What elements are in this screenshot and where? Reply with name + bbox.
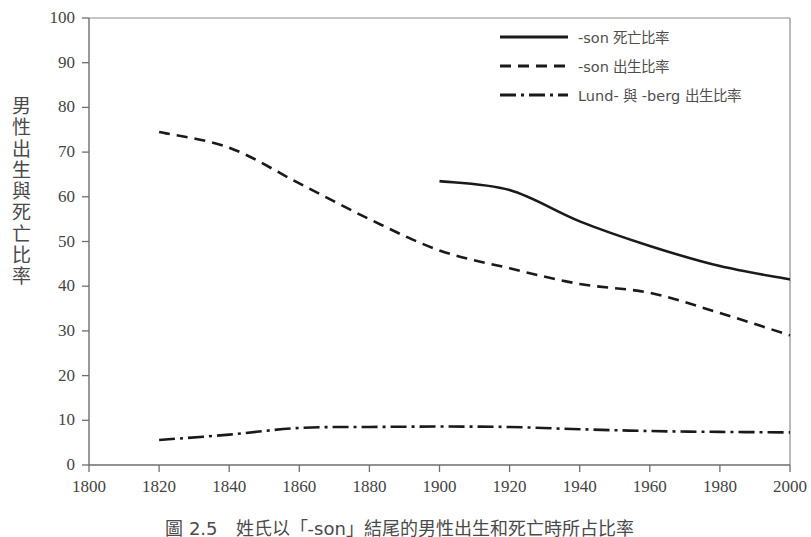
- chart-legend: -son 死亡比率-son 出生比率Lund- 與 -berg 出生比率: [498, 22, 794, 109]
- legend-line-sample-icon: [498, 88, 570, 102]
- x-tick-label: 1940: [548, 477, 612, 497]
- legend-item-3: Lund- 與 -berg 出生比率: [498, 80, 794, 109]
- x-tick-label: 2000: [758, 477, 811, 497]
- x-tick-label: 1980: [688, 477, 752, 497]
- x-tick-label: 1800: [57, 477, 121, 497]
- y-tick-label: 100: [33, 8, 75, 28]
- series-layer: [159, 132, 790, 440]
- legend-item-label: Lund- 與 -berg 出生比率: [570, 84, 741, 105]
- x-tick-label: 1960: [618, 477, 682, 497]
- legend-item-label: -son 出生比率: [570, 55, 669, 76]
- y-tick-label: 50: [33, 232, 75, 252]
- y-tick-label: 90: [33, 53, 75, 73]
- legend-item-2: -son 出生比率: [498, 51, 794, 80]
- figure-caption: 圖 2.5 姓氏以「-son」結尾的男性出生和死亡時所占比率: [0, 514, 799, 537]
- y-tick-label: 20: [33, 366, 75, 386]
- x-tick-label: 1840: [197, 477, 261, 497]
- x-tick-label: 1820: [127, 477, 191, 497]
- x-tick-label: 1880: [337, 477, 401, 497]
- x-tick-label: 1920: [478, 477, 542, 497]
- x-tick-label: 1900: [408, 477, 472, 497]
- y-tick-label: 60: [33, 187, 75, 207]
- y-tick-label: 70: [33, 142, 75, 162]
- legend-item-1: -son 死亡比率: [498, 22, 794, 51]
- series-line-3: [159, 427, 790, 440]
- legend-line-sample-icon: [498, 59, 570, 73]
- series-line-2: [159, 132, 790, 335]
- legend-line-sample-icon: [498, 30, 570, 44]
- y-tick-label: 10: [33, 410, 75, 430]
- y-tick-label: 0: [33, 455, 75, 475]
- y-tick-label: 40: [33, 276, 75, 296]
- x-tick-label: 1860: [267, 477, 331, 497]
- y-tick-label: 30: [33, 321, 75, 341]
- y-tick-label: 80: [33, 97, 75, 117]
- legend-item-label: -son 死亡比率: [570, 26, 669, 47]
